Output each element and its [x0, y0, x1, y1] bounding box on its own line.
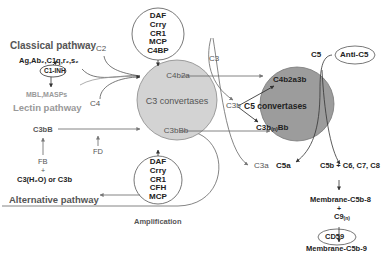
c3b-label: C3b: [226, 102, 241, 110]
c4-label: C4: [90, 100, 100, 108]
anti-c5-label: Anti-C5: [340, 51, 368, 59]
fd-label: FD: [93, 148, 103, 156]
mac-plus-label: +: [337, 205, 341, 212]
mac-c5b8-label: Membrane-C5b-8: [310, 196, 371, 204]
c1-inh-label: C1-INH: [44, 68, 66, 75]
c3h2o-or-c3b-label: C3(H₂O) or C3b: [17, 176, 72, 184]
regulators-bottom: DAF Crry CR1 CFH MCP: [149, 158, 167, 202]
c2-label: C2: [96, 45, 106, 53]
lectin-components-label: MBL,MASPs: [26, 91, 67, 98]
cd59-label: CD59: [325, 233, 344, 241]
alternative-pathway-label: Alternative pathway: [9, 195, 99, 205]
lectin-pathway-label: Lectin pathway: [13, 103, 82, 113]
fb-label: FB: [38, 158, 48, 166]
c3bnbb-label: C3b(n)Bb: [256, 124, 288, 133]
c5-label: C5: [311, 51, 321, 59]
c3-label: C3: [209, 55, 219, 63]
classical-components-label: Ag,Ab₂,C1q,r₂,s₂: [19, 57, 79, 65]
fb-plus-label: +: [41, 167, 45, 174]
amplification-label: Amplification: [134, 218, 182, 226]
regulator-c4bp: C4BP: [147, 47, 168, 56]
pathway-diagram-lines: [0, 0, 386, 256]
c4b2a-label: C4b2a: [166, 72, 190, 80]
c5a-label: C5a: [276, 162, 291, 170]
c5b-combo-label: C5b + C6, C7, C8: [320, 162, 380, 170]
classical-pathway-label: Classical pathway: [10, 41, 96, 51]
c3bb-label: C3bB: [33, 126, 53, 134]
mac-c5b9-label: Membrane-C5b-9: [306, 245, 367, 253]
regulators-top: DAF Crry CR1 MCP C4BP: [147, 12, 168, 56]
c9n-label: C9(n): [334, 213, 350, 222]
regulator-mcp: MCP: [149, 193, 167, 202]
c3a-label: C3a: [254, 162, 269, 170]
c3-convertases-title: C3 convertases: [146, 97, 209, 106]
c4b2a3b-label: C4b2a3b: [273, 76, 306, 84]
c5-convertases-title: C5 convertases: [244, 102, 307, 111]
c3bbb-label: C3bBb: [164, 127, 188, 135]
